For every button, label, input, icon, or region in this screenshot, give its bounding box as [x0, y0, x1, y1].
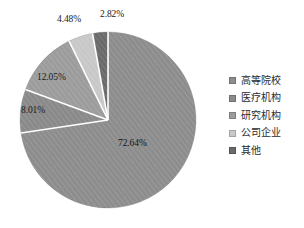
- legend-item-label: 研究机构: [241, 111, 281, 121]
- chart-legend: 高等院校医疗机构研究机构公司企业其他: [229, 72, 301, 160]
- pie-slice-label: 8.01%: [21, 105, 45, 115]
- pie-chart-figure: 72.64%8.01%12.05%4.48%2.82% 高等院校医疗机构研究机构…: [0, 0, 304, 228]
- legend-item-label: 医疗机构: [241, 93, 281, 103]
- legend-item[interactable]: 研究机构: [229, 107, 301, 125]
- legend-item[interactable]: 其他: [229, 142, 301, 160]
- pie-slice-label: 12.05%: [37, 72, 66, 82]
- legend-item-label: 其他: [241, 146, 261, 156]
- pie-slice-label: 72.64%: [118, 138, 147, 148]
- legend-swatch-icon: [229, 95, 236, 102]
- legend-item[interactable]: 高等院校: [229, 72, 301, 90]
- legend-swatch-icon: [229, 112, 236, 119]
- pie-slice-label: 2.82%: [100, 9, 124, 19]
- legend-item-label: 公司企业: [241, 128, 281, 138]
- legend-item-label: 高等院校: [241, 76, 281, 86]
- legend-swatch-icon: [229, 77, 236, 84]
- pie-slice-label: 4.48%: [57, 14, 81, 24]
- legend-swatch-icon: [229, 147, 236, 154]
- legend-swatch-icon: [229, 130, 236, 137]
- legend-item[interactable]: 医疗机构: [229, 90, 301, 108]
- legend-item[interactable]: 公司企业: [229, 125, 301, 143]
